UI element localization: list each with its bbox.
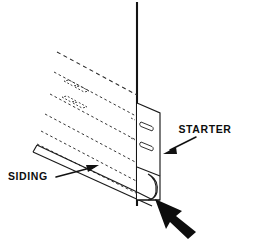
figure-root: SIDING STARTER: [0, 0, 255, 240]
siding-starter-diagram: SIDING STARTER: [0, 0, 255, 240]
siding-label: SIDING: [8, 170, 48, 182]
starter-label: STARTER: [178, 123, 231, 135]
figure-background: [0, 0, 255, 240]
